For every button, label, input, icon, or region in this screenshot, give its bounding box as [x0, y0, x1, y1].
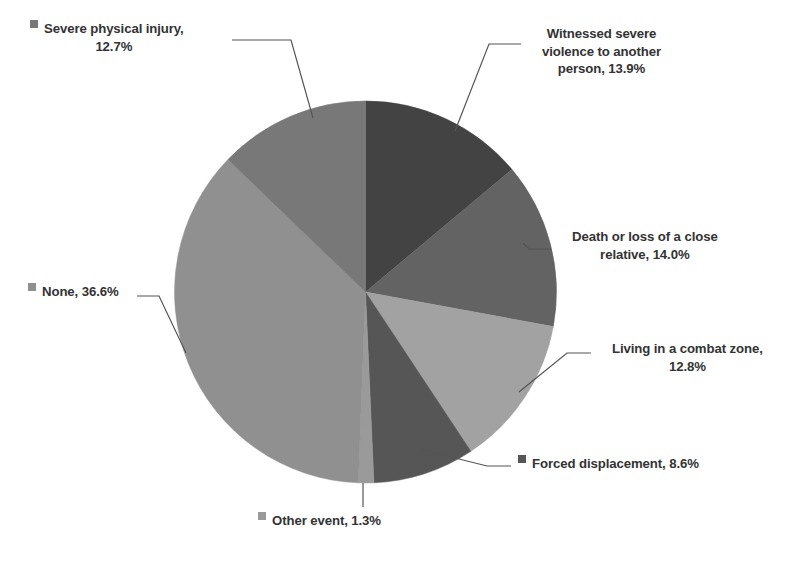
callout-label-living-combat-zone: Living in a combat zone, 12.8% [612, 340, 763, 375]
pie-chart-figure: Severe physical injury, 12.7% Witnessed … [0, 0, 807, 563]
pie-chart-canvas [0, 0, 807, 563]
legend-swatch-icon-death-or-loss [558, 228, 566, 236]
callout-witnessed-severe-violence: Witnessed severe violence to another per… [528, 25, 661, 78]
legend-swatch-icon-witnessed-severe-violence [528, 25, 536, 33]
callout-label-witnessed-severe-violence: Witnessed severe violence to another per… [542, 25, 661, 78]
callout-forced-displacement: Forced displacement, 8.6% [518, 455, 699, 473]
callout-label-other-event: Other event, 1.3% [272, 512, 381, 530]
legend-swatch-icon-other-event [258, 512, 266, 520]
callout-other-event: Other event, 1.3% [258, 512, 381, 530]
callout-living-combat-zone: Living in a combat zone, 12.8% [598, 340, 763, 375]
callout-label-none: None, 36.6% [42, 283, 119, 301]
callout-none: None, 36.6% [28, 283, 119, 301]
callout-label-death-or-loss: Death or loss of a close relative, 14.0% [572, 228, 718, 263]
callout-label-forced-displacement: Forced displacement, 8.6% [532, 455, 699, 473]
legend-swatch-icon-living-combat-zone [598, 340, 606, 348]
callout-death-or-loss: Death or loss of a close relative, 14.0% [558, 228, 718, 263]
leader-line-severe-physical-injury [232, 40, 313, 118]
leader-line-witnessed-severe-violence [455, 44, 521, 131]
legend-swatch-icon-none [28, 283, 36, 291]
legend-swatch-icon-severe-physical-injury [30, 20, 38, 28]
callout-severe-physical-injury: Severe physical injury, 12.7% [30, 20, 184, 55]
legend-swatch-icon-forced-displacement [518, 455, 526, 463]
pie-slice-group [175, 101, 557, 483]
callout-label-severe-physical-injury: Severe physical injury, 12.7% [44, 20, 184, 55]
